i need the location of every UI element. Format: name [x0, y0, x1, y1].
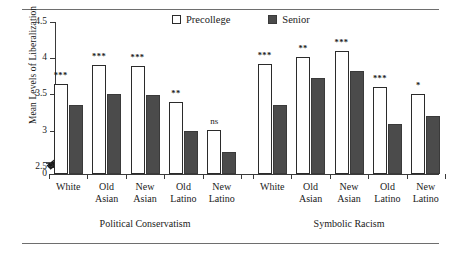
x-tick-mark [407, 174, 408, 179]
x-label-line1: White [49, 181, 87, 193]
x-label-line2: Latino [203, 193, 241, 205]
significance-label: * [405, 81, 431, 90]
bar-senior [107, 94, 121, 174]
x-label-line1: New [126, 181, 164, 193]
bar-precollege [411, 94, 425, 174]
significance-label: ** [290, 44, 316, 53]
bar-precollege [207, 130, 221, 174]
x-tick-mark [330, 174, 331, 179]
y-tick-label: 4 [0, 53, 47, 63]
x-label-line1: New [203, 181, 241, 193]
x-label-line1: New [330, 181, 368, 193]
x-tick-mark [368, 174, 369, 179]
x-tick-mark [253, 174, 254, 179]
x-label-line2: Latino [368, 193, 406, 205]
bar-precollege [335, 51, 349, 174]
x-axis-label: White [253, 181, 291, 193]
legend-swatch-filled-square-icon [268, 15, 277, 24]
significance-label: *** [329, 38, 355, 47]
x-label-line1: Old [87, 181, 125, 193]
x-axis-line [55, 174, 439, 175]
y-tick-label: 3 [0, 126, 47, 136]
x-label-line2: Asian [330, 193, 368, 205]
legend-swatch-open-square-icon [172, 15, 181, 24]
legend-label-precollege: Precollege [186, 14, 230, 25]
legend-label-senior: Senior [282, 14, 309, 25]
bar-senior [388, 124, 402, 174]
bar-precollege [92, 65, 106, 174]
x-label-line2: Asian [126, 193, 164, 205]
x-axis-label: NewAsian [126, 181, 164, 205]
x-label-line2: Latino [407, 193, 445, 205]
x-label-line1: New [407, 181, 445, 193]
x-tick-mark [203, 174, 204, 179]
x-label-line1: Old [368, 181, 406, 193]
x-axis-label: NewAsian [330, 181, 368, 205]
x-tick-mark [87, 174, 88, 179]
y-tick-label: 0 [0, 169, 47, 179]
x-label-line1: Old [164, 181, 202, 193]
bar-senior [273, 105, 287, 174]
figure-bar-chart: Mean Levels of Liberalization 4.543.532.… [0, 0, 461, 254]
bar-precollege [131, 66, 145, 174]
x-axis-label: OldAsian [87, 181, 125, 205]
bar-precollege [373, 87, 387, 174]
x-label-line2: Asian [291, 193, 329, 205]
bar-senior [69, 105, 83, 174]
x-label-line2: Asian [87, 193, 125, 205]
x-axis-label: White [49, 181, 87, 193]
bar-senior [426, 116, 440, 174]
bar-senior [146, 95, 160, 174]
x-tick-mark [126, 174, 127, 179]
group-title: Symbolic Racism [259, 218, 439, 229]
bottom-rule [22, 243, 439, 244]
bar-senior [184, 131, 198, 174]
significance-label: *** [86, 52, 112, 61]
x-axis-label: OldAsian [291, 181, 329, 205]
significance-label: *** [367, 74, 393, 83]
x-tick-mark [49, 174, 50, 179]
x-tick-mark [241, 174, 242, 179]
bar-precollege [296, 57, 310, 174]
x-label-line2: Latino [164, 193, 202, 205]
x-axis-label: OldLatino [164, 181, 202, 205]
significance-label: *** [252, 51, 278, 60]
significance-label: ns [201, 117, 227, 126]
x-tick-mark [164, 174, 165, 179]
top-rule [22, 9, 439, 10]
x-axis-label: OldLatino [368, 181, 406, 205]
bar-senior [311, 78, 325, 174]
bar-precollege [54, 84, 68, 174]
legend-item-senior: Senior [268, 14, 309, 25]
x-axis-label: NewLatino [203, 181, 241, 205]
group-title: Political Conservatism [55, 218, 235, 229]
x-tick-mark [291, 174, 292, 179]
x-label-line1: Old [291, 181, 329, 193]
plot-area: ***********ns************ [55, 22, 439, 174]
bar-precollege [258, 64, 272, 174]
y-tick-label: 3.5 [0, 89, 47, 99]
legend-item-precollege: Precollege [172, 14, 230, 25]
x-label-line1: White [253, 181, 291, 193]
significance-label: *** [48, 71, 74, 80]
bar-precollege [169, 102, 183, 174]
y-tick-mark [50, 174, 55, 175]
x-tick-mark [445, 174, 446, 179]
legend: Precollege Senior [172, 14, 310, 25]
bar-senior [222, 152, 236, 174]
y-tick-label: 4.5 [0, 17, 47, 27]
significance-label: ** [163, 89, 189, 98]
significance-label: *** [125, 53, 151, 62]
x-axis-label: NewLatino [407, 181, 445, 205]
bar-senior [350, 71, 364, 175]
